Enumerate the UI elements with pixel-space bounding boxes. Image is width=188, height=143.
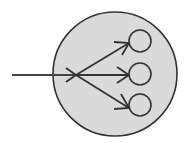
diagram-svg bbox=[0, 0, 188, 143]
target-node-middle bbox=[129, 63, 151, 85]
target-node-bottom bbox=[129, 94, 151, 116]
fan-out-diagram bbox=[0, 0, 188, 143]
target-node-top bbox=[129, 30, 151, 52]
